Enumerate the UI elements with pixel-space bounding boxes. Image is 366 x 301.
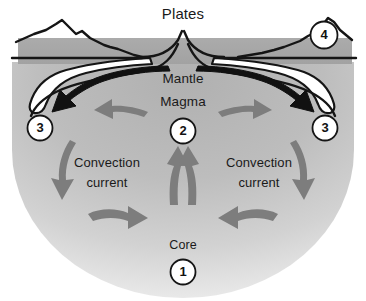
label-convection-left-line1: Convection [74, 156, 140, 171]
label-convection-right-line2: current [238, 176, 279, 191]
marker-label-1: 1 [171, 260, 195, 284]
marker-label-3-left: 3 [28, 116, 52, 140]
label-convection-left-line2: current [86, 176, 127, 191]
label-core: Core [169, 238, 197, 252]
marker-label-2: 2 [171, 119, 195, 143]
marker-label-3-right: 3 [313, 116, 337, 140]
label-mantle: Mantle [162, 71, 203, 86]
label-convection-right-line1: Convection [226, 156, 292, 171]
label-magma: Magma [160, 94, 206, 109]
marker-label-4: 4 [312, 23, 336, 47]
plate-tectonics-diagram: Plates Mantle Magma Core Convection curr… [0, 0, 366, 301]
label-plates: Plates [162, 6, 204, 23]
